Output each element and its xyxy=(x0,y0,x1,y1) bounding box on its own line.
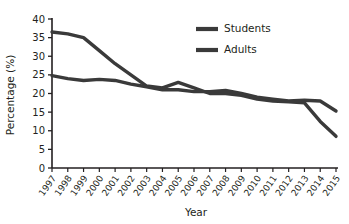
y-tick-label: 25 xyxy=(32,69,45,80)
series-line-students xyxy=(52,32,336,136)
y-tick-label: 40 xyxy=(32,14,45,25)
x-tick-label: 2015 xyxy=(321,173,342,197)
x-axis-title: Year xyxy=(184,206,208,218)
y-axis-title: Percentage (%) xyxy=(4,55,16,136)
line-chart: 0510152025303540 19971998199920002001200… xyxy=(0,0,349,224)
y-tick-label: 10 xyxy=(32,125,45,136)
y-tick-label: 30 xyxy=(32,51,45,62)
y-tick-label: 20 xyxy=(32,88,45,99)
series-line-adults xyxy=(52,76,336,111)
y-tick-label: 5 xyxy=(39,144,45,155)
y-tick-label: 35 xyxy=(32,32,45,43)
legend-label-adults: Adults xyxy=(224,43,257,55)
y-axis: 0510152025303540 xyxy=(32,14,52,174)
chart-canvas: 0510152025303540 19971998199920002001200… xyxy=(0,0,349,224)
y-tick-label: 15 xyxy=(32,107,45,118)
legend-label-students: Students xyxy=(224,22,271,34)
chart-legend: StudentsAdults xyxy=(196,22,271,55)
data-series-group xyxy=(52,32,336,136)
y-tick-label: 0 xyxy=(39,163,45,174)
x-axis: 1997199819992000200120022003200420052006… xyxy=(37,168,342,198)
